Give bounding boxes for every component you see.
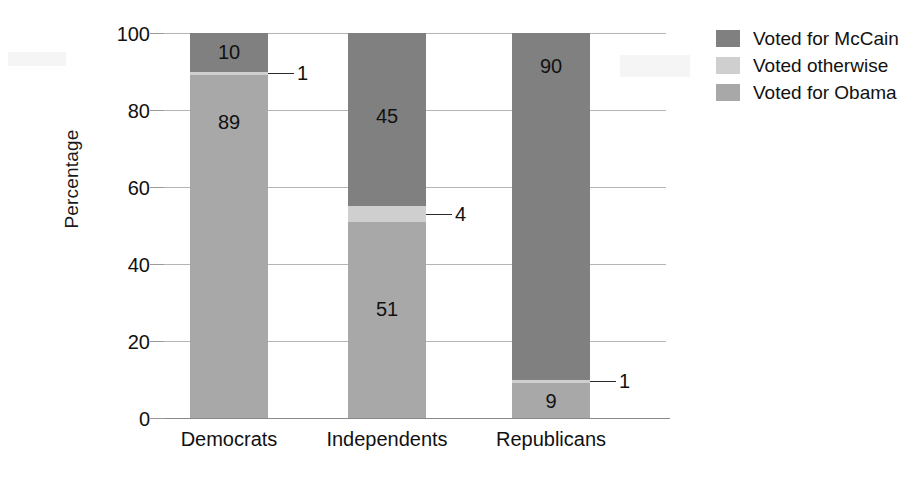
legend: Voted for McCain Voted otherwise Voted f…: [716, 25, 899, 106]
tick-60: [150, 187, 164, 188]
axis-baseline: [150, 418, 670, 419]
segment-value: 45: [376, 106, 398, 126]
tick-40: [150, 264, 164, 265]
legend-label: Voted for Obama: [753, 82, 897, 104]
bar-democrats: 10 89: [190, 33, 268, 418]
callout-value-republicans-otherwise: 1: [619, 371, 630, 391]
x-tick-label-republicans: Republicans: [441, 428, 661, 451]
y-tick-label-100: 100: [88, 24, 150, 44]
legend-swatch-mccain: [716, 30, 740, 47]
bar-independents: 45 51: [348, 33, 426, 418]
legend-swatch-otherwise: [716, 57, 740, 74]
legend-item-obama[interactable]: Voted for Obama: [716, 79, 899, 106]
legend-label: Voted for McCain: [753, 28, 899, 50]
callout-line-independents-otherwise: [426, 214, 452, 215]
segment-value: 10: [218, 42, 240, 62]
y-tick-label-60: 60: [88, 178, 150, 198]
segment-democrats-mccain: 10: [190, 33, 268, 72]
callout-line-republicans-otherwise: [590, 381, 616, 382]
y-axis-title: Percentage: [61, 99, 83, 259]
scan-artifact: [8, 52, 66, 66]
segment-value: 90: [540, 56, 562, 76]
tick-20: [150, 341, 164, 342]
segment-independents-mccain: 45: [348, 33, 426, 206]
scan-artifact: [620, 55, 690, 77]
legend-item-mccain[interactable]: Voted for McCain: [716, 25, 899, 52]
tick-0: [150, 418, 164, 419]
callout-line-democrats-otherwise: [268, 73, 294, 74]
y-tick-label-40: 40: [88, 255, 150, 275]
legend-swatch-obama: [716, 84, 740, 101]
callout-value-democrats-otherwise: 1: [297, 63, 308, 83]
segment-independents-otherwise: [348, 206, 426, 221]
tick-80: [150, 110, 164, 111]
y-tick-label-0: 0: [88, 409, 150, 429]
y-tick-label-80: 80: [88, 101, 150, 121]
stacked-bar-chart: Percentage 100 80 60 40 20 0 10 89 1 45: [0, 0, 900, 485]
bar-republicans: 90 9: [512, 33, 590, 418]
segment-value: 51: [376, 299, 398, 319]
y-tick-label-20: 20: [88, 332, 150, 352]
legend-label: Voted otherwise: [753, 55, 888, 77]
y-axis-tick-labels: 100 80 60 40 20 0: [88, 0, 150, 485]
segment-value: 89: [218, 112, 240, 132]
segment-value: 9: [545, 391, 556, 411]
legend-item-otherwise[interactable]: Voted otherwise: [716, 52, 899, 79]
tick-100: [150, 33, 164, 34]
segment-democrats-obama: 89: [190, 75, 268, 418]
segment-republicans-mccain: 90: [512, 33, 590, 380]
segment-republicans-obama: 9: [512, 383, 590, 418]
segment-independents-obama: 51: [348, 222, 426, 418]
callout-value-independents-otherwise: 4: [455, 204, 466, 224]
